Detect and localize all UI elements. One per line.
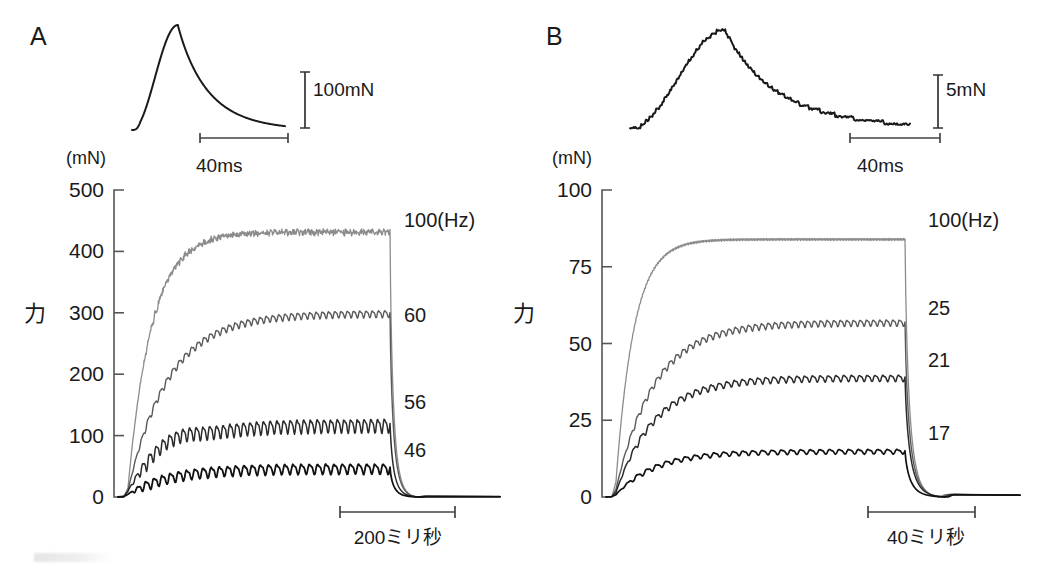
force-trace-25hz	[606, 320, 1020, 497]
y-axis-tick-label: 0	[580, 485, 592, 508]
panel-a-letter: A	[30, 22, 47, 51]
series-label-100hz: 100(Hz)	[404, 209, 475, 231]
force-trace-100hz	[118, 229, 500, 497]
y-axis-tick-label: 100	[557, 178, 592, 201]
series-label-100hz: 100(Hz)	[928, 209, 999, 231]
force-trace-60hz	[118, 311, 500, 497]
panel-a-force-axis-title: 力	[24, 295, 46, 327]
twitch-trace	[132, 25, 285, 130]
force-trace-21hz	[606, 375, 1020, 497]
y-axis-tick-label: 500	[69, 178, 104, 201]
force-trace-100hz	[606, 238, 1020, 497]
series-label-25hz: 25	[928, 297, 950, 319]
force-trace-56hz	[118, 419, 500, 497]
panel-b-force-calibration-label: 5mN	[946, 79, 986, 101]
panel-b-time-scalebar-label: 40ミリ秒	[866, 522, 986, 549]
panel-b: B (mN) 力 5mN 40ms 40ミリ秒 0255075100100(Hz…	[520, 0, 1039, 569]
y-axis-tick-label: 25	[569, 408, 592, 431]
series-label-56hz: 56	[404, 391, 426, 413]
panel-a-time-calibration-label: 40ms	[196, 155, 242, 177]
series-label-17hz: 17	[928, 422, 950, 444]
panel-b-force-axis-title: 力	[513, 295, 535, 327]
y-axis-tick-label: 200	[69, 362, 104, 385]
y-axis-tick-label: 0	[92, 485, 104, 508]
figure-root: A (mN) 力 100mN 40ms 200ミリ秒 0100200300400…	[0, 0, 1039, 569]
series-label-46hz: 46	[404, 439, 426, 461]
panel-a-unit-label: (mN)	[66, 148, 106, 169]
y-axis-tick-label: 75	[569, 255, 592, 278]
y-axis-tick-label: 50	[569, 332, 592, 355]
panel-b-unit-label: (mN)	[552, 148, 592, 169]
series-label-21hz: 21	[928, 349, 950, 371]
y-axis-tick-label: 100	[69, 424, 104, 447]
y-axis-tick-label: 400	[69, 239, 104, 262]
twitch-trace	[630, 29, 910, 128]
panel-a: A (mN) 力 100mN 40ms 200ミリ秒 0100200300400…	[0, 0, 520, 569]
force-trace-17hz	[606, 449, 1020, 497]
series-label-60hz: 60	[404, 304, 426, 326]
page-footer-mark	[34, 553, 112, 562]
panel-b-time-calibration-label: 40ms	[857, 155, 903, 177]
force-trace-46hz	[118, 464, 500, 497]
y-axis-tick-label: 300	[69, 301, 104, 324]
panel-a-force-calibration-label: 100mN	[313, 79, 374, 101]
panel-a-plot: 0100200300400500100(Hz)605646	[0, 0, 520, 569]
panel-a-time-scalebar-label: 200ミリ秒	[338, 522, 458, 549]
panel-b-letter: B	[546, 22, 563, 51]
